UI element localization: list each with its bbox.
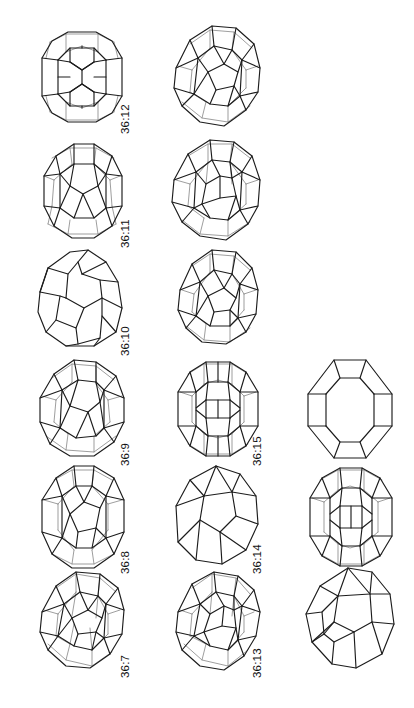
figure-label: 36:7 [118,620,132,678]
polyhedron-drawing-36-15 [294,350,406,468]
figure-label: 36:14 [250,516,264,574]
figure-label: 36:9 [118,408,132,466]
polyhedron-drawing-36-13 [294,562,406,680]
figure-label: 36:11 [118,190,132,248]
figure-cell: 36:12 [140,18,275,136]
figure-cell: 36:14 [272,458,407,576]
polyhedron-drawing-36-11 [162,132,274,250]
figure-label: 36:8 [118,516,132,574]
figure-cell: 36:15 [272,350,407,468]
figure-cell: 36:13 [272,562,407,680]
polyhedra-plate: 36:6 [0,0,414,708]
polyhedron-drawing-36-14 [294,458,406,576]
figure-label: 36:10 [118,298,132,356]
figure-label: 36:12 [118,76,132,134]
figure-cell: 36:10 [140,240,275,358]
figure-label: 36:13 [250,620,264,678]
polyhedron-drawing-36-12 [162,18,274,136]
figure-label: 36:15 [250,408,264,466]
figure-cell: 36:11 [140,132,275,250]
polyhedron-drawing-36-10 [162,240,274,358]
